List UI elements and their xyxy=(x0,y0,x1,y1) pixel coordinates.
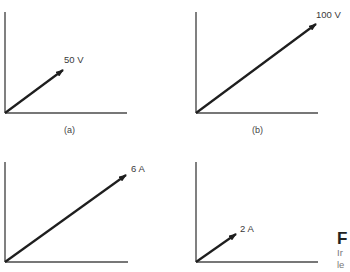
vector-label: 6 A xyxy=(131,163,145,174)
panel-b: 100 V (b) xyxy=(196,9,341,135)
panel-caption: (a) xyxy=(64,125,75,135)
vector-label: 2 A xyxy=(240,223,254,234)
cropped-figure-title: F xyxy=(337,229,347,249)
panel-caption: (b) xyxy=(252,125,263,135)
panel-d: 2 A xyxy=(196,162,318,262)
cropped-caption-line-1: Ir xyxy=(337,247,343,258)
panel-a: 50 V (a) xyxy=(5,12,127,135)
vector-arrow xyxy=(5,70,63,113)
cropped-caption-line-2: le xyxy=(337,259,344,270)
phasor-figure: 50 V (a) 100 V (b) 6 A 2 A xyxy=(0,0,350,272)
vector-arrow xyxy=(196,24,316,113)
vector-arrow xyxy=(196,234,236,262)
vector-label: 50 V xyxy=(64,54,84,65)
vector-arrow xyxy=(5,175,126,262)
panel-c: 6 A xyxy=(5,162,145,262)
vector-label: 100 V xyxy=(316,9,341,20)
